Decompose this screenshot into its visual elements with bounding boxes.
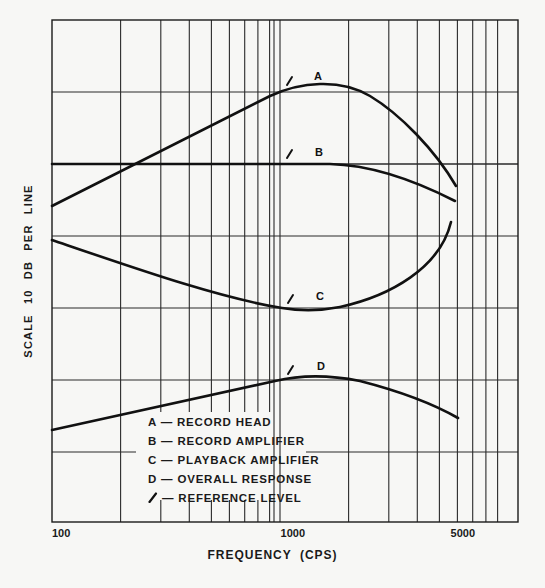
reference-level-marks [287,77,293,374]
legend: A — RECORD HEAD B — RECORD AMPLIFIER C —… [148,413,319,508]
reference-arrow-icon [288,295,293,303]
curve-a-record-head [52,84,456,206]
curve-label-d: D [317,360,325,372]
curve-labels: A B C D [314,70,325,372]
x-tick-100: 100 [52,527,70,539]
reference-arrow-icon [287,150,292,158]
curve-label-c: C [316,290,324,302]
legend-item-c: C — PLAYBACK AMPLIFIER [148,451,319,470]
curves [52,84,458,430]
y-axis-label: SCALE 10 DB PER LINE [22,184,34,357]
reference-arrow-icon [288,366,293,374]
legend-item-d: D — OVERALL RESPONSE [148,470,319,489]
horizontal-grid [52,92,518,452]
x-axis-label: FREQUENCY (CPS) [0,548,545,562]
x-tick-5000: 5000 [451,527,475,539]
legend-item-b: B — RECORD AMPLIFIER [148,432,319,451]
reference-arrow-icon [148,492,158,503]
x-tick-1000: 1000 [281,527,305,539]
legend-item-a: A — RECORD HEAD [148,413,319,432]
legend-item-reference: — REFERENCE LEVEL [148,489,319,508]
curve-c-playback-amplifier [52,222,451,310]
curve-b-record-amplifier [52,164,455,201]
reference-arrow-icon [287,77,292,85]
curve-label-b: B [315,146,323,158]
curve-label-a: A [314,70,322,82]
